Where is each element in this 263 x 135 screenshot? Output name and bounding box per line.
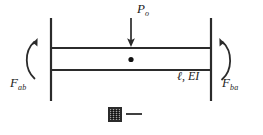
left-moment-subscript: ab xyxy=(18,83,26,92)
scan-artifact-texture xyxy=(110,109,120,120)
left-moment-label: Fab xyxy=(10,76,26,89)
beam-diagram-figure: Po Fab Fba ℓ, EI xyxy=(0,0,263,135)
left-end-moment-curved-arrow xyxy=(27,38,38,79)
downward-point-load-arrow xyxy=(127,18,135,47)
right-moment-label: Fba xyxy=(222,76,238,89)
beam-properties-label: ℓ, EI xyxy=(177,70,199,82)
right-moment-symbol: F xyxy=(222,75,230,90)
right-end-moment-curved-arrow xyxy=(219,38,230,80)
point-load-label: Po xyxy=(137,2,149,15)
right-moment-subscript: ba xyxy=(230,83,238,92)
left-moment-symbol: F xyxy=(10,75,18,90)
point-load-symbol: P xyxy=(137,1,145,16)
beam-diagram-canvas xyxy=(0,0,263,135)
beam-midspan-marker xyxy=(128,57,133,62)
point-load-subscript: o xyxy=(145,9,149,18)
scan-artifact-glyph xyxy=(108,107,122,122)
